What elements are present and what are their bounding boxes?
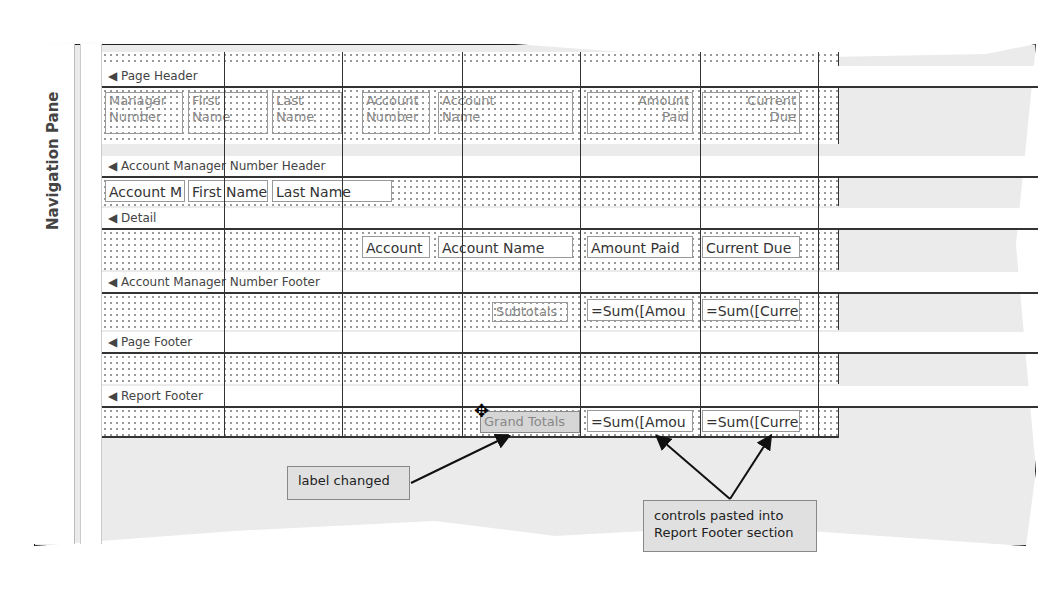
- callout-arrows: [0, 0, 1048, 590]
